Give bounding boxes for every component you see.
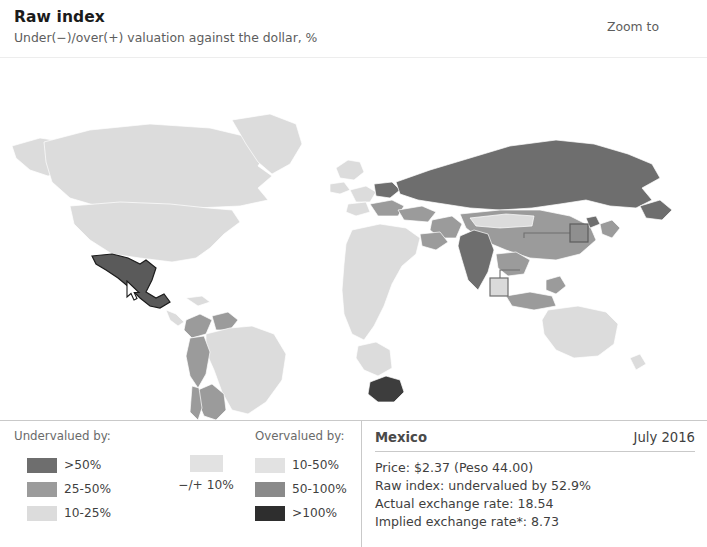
legend-overvalued-column: 10-50% 50-100% >100% xyxy=(255,453,347,525)
triangle-down-icon[interactable] xyxy=(673,20,691,33)
country-cuba[interactable] xyxy=(186,296,210,306)
info-actual-rate-line: Actual exchange rate: 18.54 xyxy=(375,495,695,513)
country-southeast-europe[interactable] xyxy=(370,200,404,216)
legend-item[interactable]: 50-100% xyxy=(255,477,347,501)
page-subtitle: Under(−)/over(+) valuation against the d… xyxy=(14,30,693,46)
country-name: Mexico xyxy=(375,430,427,445)
country-southern-africa[interactable] xyxy=(356,342,392,376)
legend-item[interactable]: 10-25% xyxy=(27,501,111,525)
info-implied-rate-line: Implied exchange rate*: 8.73 xyxy=(375,513,695,531)
bottom-section: Undervalued by: Overvalued by: >50% 25-5… xyxy=(0,420,707,547)
country-info-panel: Mexico July 2016 Price: $2.37 (Peso 44.0… xyxy=(361,421,707,547)
legend-undervalued-heading: Undervalued by: xyxy=(14,429,111,443)
legend-label: 10-50% xyxy=(292,458,339,472)
country-australia[interactable] xyxy=(542,306,618,358)
mouse-pointer-icon xyxy=(126,280,142,302)
country-info-lines: Price: $2.37 (Peso 44.00) Raw index: und… xyxy=(375,452,695,531)
country-africa[interactable] xyxy=(342,224,420,340)
country-united-states[interactable] xyxy=(70,202,240,262)
country-date: July 2016 xyxy=(634,430,695,445)
legend-label: >50% xyxy=(64,458,101,472)
chart-header: Raw index Under(−)/over(+) valuation aga… xyxy=(0,0,707,57)
legend-label: >100% xyxy=(292,506,337,520)
legend-swatch xyxy=(255,482,285,497)
legend-neutral-label: −/+ 10% xyxy=(162,478,250,492)
country-canada[interactable] xyxy=(44,124,272,208)
country-japan[interactable] xyxy=(600,220,620,238)
legend-label: 25-50% xyxy=(64,482,111,496)
country-india[interactable] xyxy=(458,230,494,290)
country-south-africa[interactable] xyxy=(368,376,404,402)
world-map[interactable] xyxy=(0,57,707,420)
legend-swatch xyxy=(27,506,57,521)
zoom-to-dropdown[interactable]: Zoom to xyxy=(607,19,691,34)
info-rawindex-line: Raw index: undervalued by 52.9% xyxy=(375,477,695,495)
country-poland-baltic[interactable] xyxy=(374,182,400,198)
map-legend: Undervalued by: Overvalued by: >50% 25-5… xyxy=(0,421,360,547)
zoom-to-label: Zoom to xyxy=(607,19,659,34)
legend-item[interactable]: 10-50% xyxy=(255,453,347,477)
legend-neutral-item[interactable]: −/+ 10% xyxy=(162,455,250,492)
legend-swatch xyxy=(27,482,57,497)
legend-label: 50-100% xyxy=(292,482,347,496)
legend-swatch xyxy=(255,506,285,521)
country-iberia[interactable] xyxy=(346,202,370,216)
country-philippines[interactable] xyxy=(546,276,566,294)
legend-swatch xyxy=(27,458,57,473)
world-map-svg[interactable] xyxy=(0,58,707,420)
legend-overvalued-heading: Overvalued by: xyxy=(255,429,344,443)
country-info-header: Mexico July 2016 xyxy=(375,430,695,452)
legend-undervalued-column: >50% 25-50% 10-25% xyxy=(27,453,111,525)
legend-item[interactable]: >50% xyxy=(27,453,111,477)
legend-item[interactable]: >100% xyxy=(255,501,347,525)
country-indonesia[interactable] xyxy=(506,292,556,310)
country-peru[interactable] xyxy=(186,336,210,388)
country-turkey[interactable] xyxy=(398,206,436,222)
hong-kong-callout-box[interactable] xyxy=(570,224,588,242)
info-price-line: Price: $2.37 (Peso 44.00) xyxy=(375,459,695,477)
singapore-callout-box[interactable] xyxy=(490,278,508,296)
legend-swatch xyxy=(255,458,285,473)
country-russia[interactable] xyxy=(396,140,660,210)
legend-item[interactable]: 25-50% xyxy=(27,477,111,501)
legend-label: 10-25% xyxy=(64,506,111,520)
country-norway-sweden[interactable] xyxy=(336,160,364,180)
page-title: Raw index xyxy=(14,8,693,26)
legend-neutral-swatch xyxy=(190,455,223,472)
country-new-zealand[interactable] xyxy=(630,354,646,370)
country-western-europe[interactable] xyxy=(350,186,376,202)
country-central-america[interactable] xyxy=(166,310,184,326)
country-united-kingdom[interactable] xyxy=(330,182,350,194)
